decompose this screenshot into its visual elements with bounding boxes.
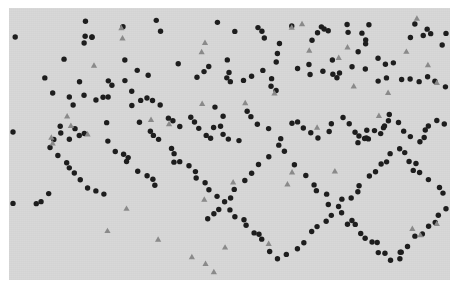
scatter-point-circle (81, 40, 86, 45)
scatter-point-circle (50, 90, 55, 95)
scatter-point-circle (10, 201, 15, 206)
scatter-point-circle (399, 77, 404, 82)
scatter-point-circle (156, 137, 161, 142)
scatter-plot-figure (0, 0, 461, 294)
scatter-point-circle (314, 188, 319, 193)
scatter-point-circle (244, 109, 249, 114)
scatter-point-circle (72, 170, 77, 175)
scatter-point-circle (122, 57, 127, 62)
scatter-point-circle (38, 199, 43, 204)
scatter-point-circle (194, 75, 199, 80)
scatter-point-circle (421, 135, 426, 140)
scatter-point-circle (135, 169, 140, 174)
scatter-point-triangle (284, 181, 290, 186)
scatter-point-circle (345, 222, 350, 227)
scatter-point-circle (363, 37, 368, 42)
scatter-point-circle (277, 41, 282, 46)
scatter-point-triangle (202, 260, 208, 265)
scatter-point-circle (61, 56, 66, 61)
scatter-point-circle (309, 38, 314, 43)
scatter-point-circle (249, 74, 254, 79)
scatter-point-circle (402, 150, 407, 155)
scatter-point-circle (339, 210, 344, 215)
scatter-point-triangle (222, 244, 228, 249)
scatter-point-circle (201, 69, 206, 74)
scatter-point-circle (355, 189, 360, 194)
scatter-point-circle (67, 94, 72, 99)
scatter-point-circle (262, 35, 267, 40)
scatter-point-circle (135, 68, 140, 73)
scatter-point-circle (425, 74, 430, 79)
scatter-point-circle (34, 201, 39, 206)
scatter-point-circle (232, 187, 237, 192)
scatter-point-circle (227, 207, 232, 212)
scatter-point-circle (13, 34, 18, 39)
scatter-point-circle (284, 252, 289, 257)
scatter-point-circle (424, 26, 429, 31)
scatter-point-circle (359, 30, 364, 35)
scatter-point-circle (144, 95, 149, 100)
scatter-point-circle (138, 98, 143, 103)
scatter-point-circle (347, 121, 352, 126)
scatter-point-circle (145, 73, 150, 78)
scatter-point-circle (275, 256, 280, 261)
scatter-point-triangle (64, 113, 70, 118)
scatter-point-triangle (199, 49, 205, 54)
scatter-point-circle (334, 75, 339, 80)
scatter-point-circle (212, 104, 217, 109)
scatter-point-circle (315, 135, 320, 140)
scatter-point-circle (241, 217, 246, 222)
scatter-point-circle (306, 62, 311, 67)
scatter-point-triangle (414, 15, 420, 20)
scatter-point-circle (228, 195, 233, 200)
scatter-point-circle (78, 177, 83, 182)
scatter-point-triangle (68, 122, 74, 127)
scatter-point-triangle (306, 47, 312, 52)
scatter-point-circle (100, 95, 105, 100)
scatter-point-circle (216, 207, 221, 212)
scatter-point-triangle (385, 90, 391, 95)
scatter-point-circle (249, 171, 254, 176)
scatter-point-circle (397, 146, 402, 151)
scatter-point-circle (388, 258, 393, 263)
scatter-point-triangle (201, 196, 207, 201)
scatter-point-circle (144, 173, 149, 178)
scatter-point-circle (384, 159, 389, 164)
scatter-point-circle (329, 213, 334, 218)
scatter-point-circle (171, 151, 176, 156)
scatter-point-circle (345, 30, 350, 35)
scatter-point-circle (93, 188, 98, 193)
plot-panel (9, 8, 450, 280)
scatter-point-circle (236, 138, 241, 143)
scatter-point-circle (356, 183, 361, 188)
scatter-point-triangle (376, 112, 382, 117)
scatter-point-circle (295, 66, 300, 71)
scatter-point-triangle (148, 117, 154, 122)
scatter-point-triangle (425, 62, 431, 67)
scatter-point-circle (256, 162, 261, 167)
scatter-point-circle (70, 102, 75, 107)
scatter-point-circle (121, 152, 126, 157)
scatter-point-circle (311, 182, 316, 187)
scatter-point-circle (218, 124, 223, 129)
scatter-point-circle (77, 133, 82, 138)
scatter-point-circle (391, 60, 396, 65)
scatter-point-circle (241, 78, 246, 83)
scatter-point-circle (396, 120, 401, 125)
scatter-point-circle (169, 146, 174, 151)
scatter-point-triangle (409, 226, 415, 231)
scatter-point-circle (352, 129, 357, 134)
scatter-point-circle (443, 206, 448, 211)
scatter-point-circle (77, 79, 82, 84)
scatter-point-circle (232, 214, 237, 219)
scatter-point-circle (417, 139, 422, 144)
scatter-point-circle (177, 124, 182, 129)
scatter-point-circle (109, 83, 114, 88)
scatter-point-circle (426, 177, 431, 182)
scatter-point-circle (439, 42, 444, 47)
scatter-point-circle (208, 136, 213, 141)
scatter-point-circle (315, 30, 320, 35)
scatter-point-circle (101, 191, 106, 196)
scatter-point-triangle (289, 169, 295, 174)
scatter-point-circle (154, 18, 159, 23)
